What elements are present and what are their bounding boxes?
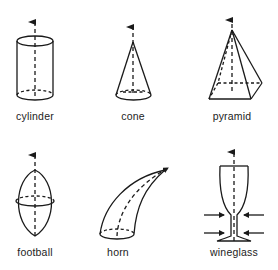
horn-shape <box>100 168 168 239</box>
label-cone: cone <box>121 110 145 122</box>
pyramid-shape <box>209 20 262 99</box>
cylinder-shape <box>17 22 53 100</box>
label-wineglass: wineglass <box>210 246 258 258</box>
football-shape <box>16 155 54 236</box>
cone-shape <box>116 27 151 100</box>
label-cylinder: cylinder <box>16 110 54 122</box>
shapes-canvas <box>0 0 278 270</box>
label-pyramid: pyramid <box>213 110 252 122</box>
label-horn: horn <box>107 246 129 258</box>
wineglass-shape <box>204 152 264 241</box>
label-football: football <box>17 246 52 258</box>
